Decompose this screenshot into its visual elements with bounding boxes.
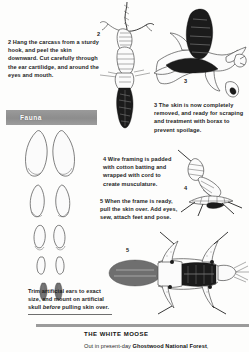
figure-label-2: 2	[97, 31, 100, 37]
footer-body: Out in present-day Ghostwood National Fo…	[84, 343, 208, 349]
section-header-label: Fauna	[20, 114, 42, 121]
step-5-text: 5 When the frame is ready, pull the skin…	[100, 197, 178, 222]
footer-body-tail: ,	[207, 343, 209, 349]
artificial-ear-templates	[16, 128, 100, 280]
footer-rule	[36, 324, 249, 327]
footer-body-bold: Ghostwood National Forest	[133, 343, 207, 349]
section-header-fauna: Fauna	[6, 110, 97, 125]
figure-label-4: 4	[184, 185, 188, 191]
caption-divider	[28, 314, 112, 315]
ear-caption: Trim artificial ears to exact size, and …	[28, 287, 112, 312]
step-4-text: 4 Wire framing is padded with cotton bat…	[103, 155, 178, 188]
figure-label-5: 5	[126, 247, 129, 253]
finished-mount-figure: 5	[108, 232, 249, 314]
footer-title: THE WHITE MOOSE	[84, 331, 149, 337]
ear-caption-tail: pulling skin over.	[60, 304, 109, 310]
field-guide-page: 2 Hang the carcass from a sturdy hook, a…	[0, 0, 249, 352]
wire-frame-figure: 4	[176, 146, 249, 218]
step-3-text: 3 The skin is now completely removed, an…	[154, 101, 246, 134]
ear-caption-emphasis: before	[43, 304, 61, 310]
figure-label-3: 3	[184, 78, 187, 84]
footer-body-lead: Out in present-day	[84, 343, 133, 349]
removed-skin-figure: 3	[152, 3, 249, 103]
